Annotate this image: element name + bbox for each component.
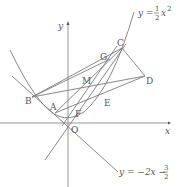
segment-b-g bbox=[32, 59, 110, 97]
label-M: M bbox=[82, 76, 91, 86]
geometry-diagram: A B C D E F G M O x y y = 1 2 x 2 y = −2… bbox=[0, 0, 181, 187]
label-B: B bbox=[25, 96, 32, 106]
parabola-eq-var: x bbox=[161, 8, 166, 18]
line-eq-lhs: y = −2x − bbox=[118, 167, 166, 177]
label-C: C bbox=[117, 38, 124, 48]
label-G: G bbox=[100, 52, 107, 62]
parabola-equation: y = 1 2 x 2 bbox=[137, 5, 171, 22]
label-D: D bbox=[146, 76, 153, 86]
line-eq-num: 3 bbox=[164, 164, 168, 172]
label-O: O bbox=[71, 125, 78, 135]
y-axis-label: y bbox=[57, 21, 64, 31]
x-axis-arrow-icon bbox=[168, 122, 171, 125]
label-E: E bbox=[104, 98, 111, 108]
label-A: A bbox=[49, 102, 57, 112]
parabola-eq-num: 1 bbox=[155, 5, 159, 13]
parabola-eq-lhs: y = bbox=[137, 8, 154, 18]
segment-c-d bbox=[122, 48, 145, 76]
segment-b-c bbox=[32, 48, 122, 97]
y-axis-arrow-icon bbox=[67, 21, 70, 25]
parabola-eq-exp: 2 bbox=[167, 5, 171, 13]
label-F: F bbox=[75, 109, 81, 119]
line-eq-den: 2 bbox=[164, 173, 168, 181]
line-equation: y = −2x − 3 2 bbox=[118, 164, 168, 181]
x-axis-label: x bbox=[165, 126, 170, 136]
parabola-eq-den: 2 bbox=[155, 14, 159, 22]
